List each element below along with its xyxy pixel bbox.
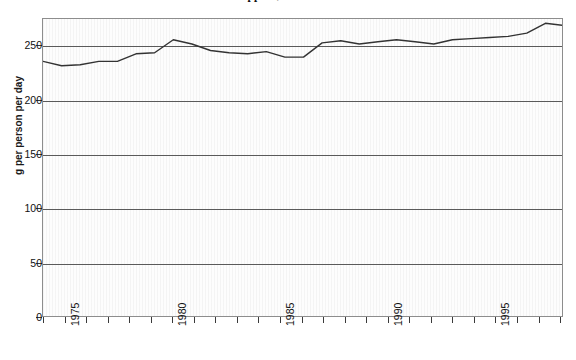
x-tick-mark-1991 (409, 317, 410, 323)
y-tick-label-250: 250 (12, 40, 42, 50)
x-tick-label-1995: 1995 (500, 303, 511, 326)
x-axis: 19751980198519901995 (42, 317, 563, 360)
y-axis-ticks: 050100150200250 (0, 0, 42, 360)
x-tick-mark-1977 (108, 317, 109, 323)
y-tick-label-200: 200 (12, 95, 42, 105)
x-tick-mark-1989 (366, 317, 367, 323)
x-tick-mark-1994 (474, 317, 475, 323)
chart-title: supplies, 1974 - 1998 (0, 0, 576, 1)
y-tick-label-0: 0 (12, 312, 42, 322)
x-tick-mark-1980 (172, 317, 173, 323)
x-tick-mark-1974 (43, 317, 44, 323)
x-tick-mark-1988 (345, 317, 346, 323)
plot-area (42, 18, 563, 317)
x-tick-mark-1979 (151, 317, 152, 323)
x-tick-mark-1996 (517, 317, 518, 323)
x-tick-mark-1984 (258, 317, 259, 323)
x-tick-mark-1990 (388, 317, 389, 323)
x-tick-label-1990: 1990 (393, 303, 404, 326)
x-tick-mark-1998 (560, 317, 561, 323)
x-tick-mark-1976 (86, 317, 87, 323)
x-tick-mark-1993 (452, 317, 453, 323)
x-tick-label-1980: 1980 (177, 303, 188, 326)
x-tick-mark-1981 (194, 317, 195, 323)
chart-container: supplies, 1974 - 1998 g per person per d… (0, 0, 576, 360)
x-tick-mark-1985 (280, 317, 281, 323)
x-tick-mark-1995 (495, 317, 496, 323)
chart-title-line-2: supplies, 1974 - 1998 (0, 0, 576, 1)
y-tick-label-100: 100 (12, 203, 42, 213)
x-tick-mark-1997 (539, 317, 540, 323)
x-tick-mark-1975 (65, 317, 66, 323)
x-tick-mark-1978 (129, 317, 130, 323)
y-tick-label-50: 50 (12, 258, 42, 268)
y-tick-label-150: 150 (12, 149, 42, 159)
x-tick-mark-1983 (237, 317, 238, 323)
x-tick-label-1975: 1975 (70, 303, 81, 326)
x-tick-label-1985: 1985 (285, 303, 296, 326)
data-series-line (43, 19, 563, 317)
series-supplies-polyline (43, 23, 563, 66)
x-tick-mark-1986 (302, 317, 303, 323)
x-tick-mark-1987 (323, 317, 324, 323)
x-tick-mark-1992 (431, 317, 432, 323)
x-tick-mark-1982 (215, 317, 216, 323)
